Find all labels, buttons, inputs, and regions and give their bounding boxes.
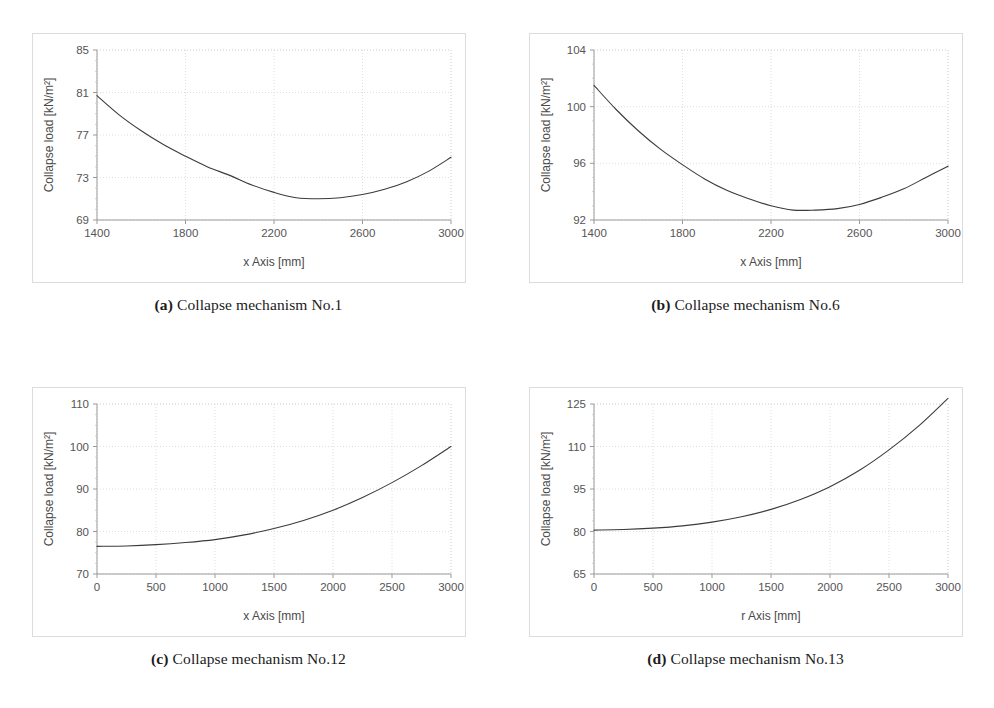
chart-a: 697377818514001800220026003000x Axis [mm… (33, 34, 465, 282)
x-axis-title: r Axis [mm] (741, 609, 800, 623)
x-tick-label: 1500 (261, 581, 287, 593)
plot-frame-b: 929610010414001800220026003000x Axis [mm… (529, 33, 963, 283)
y-tick-label: 80 (573, 526, 586, 538)
x-tick-label: 2000 (817, 581, 843, 593)
x-tick-label: 2500 (876, 581, 902, 593)
y-tick-label: 96 (573, 157, 586, 169)
x-tick-label: 1500 (758, 581, 784, 593)
x-tick-label: 0 (93, 581, 99, 593)
y-axis-title: Collapse load [kN/m²] (539, 432, 553, 547)
caption-letter-b: (b) (651, 296, 670, 313)
x-tick-label: 500 (146, 581, 165, 593)
y-tick-label: 81 (76, 87, 89, 99)
data-curve (97, 96, 451, 199)
y-tick-label: 92 (573, 214, 586, 226)
y-tick-label: 100 (566, 101, 585, 113)
y-tick-label: 69 (76, 214, 89, 226)
x-tick-label: 2000 (320, 581, 346, 593)
tick-group: 658095110125050010001500200025003000 (566, 398, 960, 593)
x-tick-label: 3000 (935, 227, 961, 239)
x-tick-label: 2200 (261, 227, 287, 239)
tick-group: 697377818514001800220026003000 (76, 44, 464, 239)
figure-panel-c: 708090100110050010001500200025003000x Ax… (0, 354, 497, 708)
figure-panel-a: 697377818514001800220026003000x Axis [mm… (0, 0, 497, 354)
figure-panel-grid: 697377818514001800220026003000x Axis [mm… (0, 0, 994, 708)
chart-c: 708090100110050010001500200025003000x Ax… (33, 388, 465, 636)
x-tick-label: 1400 (84, 227, 110, 239)
x-tick-label: 1000 (202, 581, 228, 593)
tick-group: 708090100110050010001500200025003000 (69, 398, 463, 593)
plot-frame-a: 697377818514001800220026003000x Axis [mm… (32, 33, 466, 283)
x-tick-label: 2600 (846, 227, 872, 239)
y-axis-title: Collapse load [kN/m²] (42, 432, 56, 547)
panel-caption-c: (c) Collapse mechanism No.12 (151, 650, 346, 668)
caption-text-a: Collapse mechanism No.1 (177, 296, 342, 313)
y-tick-label: 125 (566, 398, 585, 410)
y-tick-label: 110 (567, 441, 585, 453)
y-axis-title: Collapse load [kN/m²] (42, 78, 56, 193)
panel-caption-d: (d) Collapse mechanism No.13 (647, 650, 844, 668)
grid-lines (594, 50, 948, 220)
chart-b: 929610010414001800220026003000x Axis [mm… (530, 34, 962, 282)
grid-lines (594, 404, 948, 574)
caption-text-d: Collapse mechanism No.13 (670, 650, 843, 667)
y-tick-label: 70 (76, 568, 89, 580)
y-tick-label: 77 (76, 129, 89, 141)
x-tick-label: 1400 (581, 227, 607, 239)
y-tick-label: 73 (76, 172, 89, 184)
figure-panel-d: 658095110125050010001500200025003000r Ax… (497, 354, 994, 708)
x-tick-label: 1000 (699, 581, 725, 593)
x-tick-label: 3000 (438, 227, 464, 239)
y-tick-label: 95 (573, 483, 586, 495)
y-tick-label: 65 (573, 568, 586, 580)
panel-caption-b: (b) Collapse mechanism No.6 (651, 296, 840, 314)
x-tick-label: 0 (590, 581, 596, 593)
chart-d: 658095110125050010001500200025003000r Ax… (530, 388, 962, 636)
caption-letter-a: (a) (155, 296, 173, 313)
x-tick-label: 2600 (349, 227, 375, 239)
y-tick-label: 90 (76, 483, 89, 495)
grid-lines (97, 404, 451, 574)
panel-caption-a: (a) Collapse mechanism No.1 (155, 296, 343, 314)
x-tick-label: 3000 (438, 581, 464, 593)
x-axis-title: x Axis [mm] (243, 609, 304, 623)
x-tick-label: 500 (643, 581, 662, 593)
x-tick-label: 1800 (172, 227, 198, 239)
y-axis-title: Collapse load [kN/m²] (539, 78, 553, 193)
x-tick-label: 3000 (935, 581, 961, 593)
y-tick-label: 104 (566, 44, 586, 56)
tick-group: 929610010414001800220026003000 (566, 44, 960, 239)
plot-frame-d: 658095110125050010001500200025003000r Ax… (529, 387, 963, 637)
y-tick-label: 110 (70, 398, 88, 410)
x-axis-title: x Axis [mm] (740, 255, 801, 269)
x-tick-label: 2200 (758, 227, 784, 239)
caption-text-b: Collapse mechanism No.6 (674, 296, 839, 313)
x-tick-label: 2500 (379, 581, 405, 593)
y-tick-label: 80 (76, 526, 89, 538)
x-tick-label: 1800 (669, 227, 695, 239)
y-tick-label: 100 (69, 441, 88, 453)
caption-letter-c: (c) (151, 650, 169, 667)
figure-panel-b: 929610010414001800220026003000x Axis [mm… (497, 0, 994, 354)
x-axis-title: x Axis [mm] (243, 255, 304, 269)
caption-text-c: Collapse mechanism No.12 (173, 650, 346, 667)
grid-lines (97, 50, 451, 220)
caption-letter-d: (d) (647, 650, 666, 667)
plot-frame-c: 708090100110050010001500200025003000x Ax… (32, 387, 466, 637)
y-tick-label: 85 (76, 44, 89, 56)
